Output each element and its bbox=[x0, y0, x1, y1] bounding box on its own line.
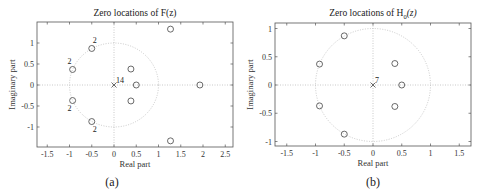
zero-marker bbox=[133, 82, 139, 88]
y-tick-label: -1 bbox=[265, 138, 272, 147]
zero-marker bbox=[399, 82, 405, 88]
multiplicity-label: 2 bbox=[68, 104, 72, 113]
x-tick-label: -1.5 bbox=[41, 150, 54, 159]
zero-marker bbox=[168, 26, 174, 32]
x-tick-label: 0 bbox=[112, 150, 116, 159]
x-tick-label: 1 bbox=[157, 150, 161, 159]
y-axis-label: Imaginary part bbox=[7, 59, 17, 110]
x-tick-label: 2.5 bbox=[220, 150, 230, 159]
axes-frame bbox=[37, 22, 233, 147]
chart-title: Zero locations of F(z) bbox=[93, 8, 176, 19]
panel-caption: (a) bbox=[105, 175, 118, 189]
pole-multiplicity-label: 14 bbox=[116, 76, 124, 85]
x-tick-label: 1 bbox=[429, 149, 433, 158]
y-tick-label: -1 bbox=[27, 123, 34, 132]
x-tick-label: -1 bbox=[66, 150, 73, 159]
zero-marker bbox=[317, 103, 323, 109]
x-tick-label: 2 bbox=[201, 150, 205, 159]
y-tick-label: -0.5 bbox=[259, 109, 272, 118]
plot-area: 7 bbox=[275, 23, 471, 146]
zero-marker bbox=[392, 103, 398, 109]
zero-plot-a: 222214-1.5-1-0.500.511.522.510.50-0.5-1Z… bbox=[7, 8, 233, 189]
x-axis-label: Real part bbox=[358, 158, 390, 168]
x-tick-label: 1.5 bbox=[176, 150, 186, 159]
y-tick-label: 0.5 bbox=[262, 53, 272, 62]
y-tick-label: 1 bbox=[30, 39, 34, 48]
plot-area: 222214 bbox=[37, 22, 233, 147]
zero-marker bbox=[341, 131, 347, 137]
panel-caption: (b) bbox=[366, 175, 380, 189]
pole-multiplicity-label: 7 bbox=[375, 76, 379, 85]
y-tick-label: -0.5 bbox=[21, 102, 34, 111]
zero-plots-figure: 222214-1.5-1-0.500.511.522.510.50-0.5-1Z… bbox=[0, 0, 477, 192]
y-tick-label: 0.5 bbox=[24, 60, 34, 69]
zero-plot-b: 7-1.5-1-0.500.511.510.50-0.5-1Zero locat… bbox=[245, 8, 471, 189]
multiplicity-label: 2 bbox=[68, 57, 72, 66]
zero-marker bbox=[128, 98, 134, 104]
multiplicity-label: 2 bbox=[93, 36, 97, 45]
multiplicity-label: 2 bbox=[93, 125, 97, 134]
x-tick-label: -1 bbox=[312, 149, 319, 158]
y-axis-label: Imaginary part bbox=[245, 59, 255, 110]
zero-marker bbox=[70, 66, 76, 72]
x-tick-label: 0.5 bbox=[397, 149, 407, 158]
y-tick-label: 0 bbox=[30, 81, 34, 90]
y-tick-label: 0 bbox=[268, 81, 272, 90]
x-tick-label: 1.5 bbox=[454, 149, 464, 158]
zero-marker bbox=[128, 66, 134, 72]
y-tick-label: 1 bbox=[268, 25, 272, 34]
x-tick-label: -0.5 bbox=[85, 150, 98, 159]
x-tick-label: 0.5 bbox=[131, 150, 141, 159]
chart-title: Zero locations of H0(z) bbox=[329, 8, 416, 20]
x-tick-label: -1.5 bbox=[280, 149, 293, 158]
x-axis-label: Real part bbox=[120, 159, 152, 169]
x-tick-label: 0 bbox=[371, 149, 375, 158]
zero-marker bbox=[168, 138, 174, 144]
zero-marker bbox=[392, 61, 398, 67]
x-tick-label: -0.5 bbox=[338, 149, 351, 158]
